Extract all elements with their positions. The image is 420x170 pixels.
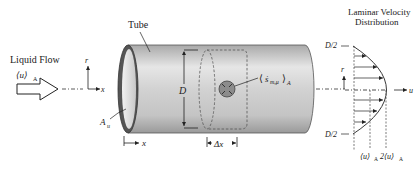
svg-text:A: A xyxy=(399,156,403,162)
liquid-flow-label: Liquid Flow xyxy=(10,54,61,65)
tube-label: Tube xyxy=(128,19,149,30)
axis-x-label: x xyxy=(100,85,105,94)
delta-x-label: Δx xyxy=(213,139,223,149)
x-position-marker xyxy=(124,136,139,146)
svg-text:ṡ: ṡ xyxy=(265,74,269,84)
svg-text:u: u xyxy=(107,123,110,129)
svg-text:A: A xyxy=(99,117,106,127)
profile-top-label: D/2 xyxy=(324,41,337,50)
tube xyxy=(118,45,314,133)
svg-text:⟨u⟩: ⟨u⟩ xyxy=(16,70,28,80)
velocity-profile xyxy=(353,46,387,150)
heat-source-icon xyxy=(219,81,235,97)
max-velocity-label: 2⟨u⟩ A xyxy=(380,152,403,162)
x-marker-label: x xyxy=(141,138,146,148)
area-label: A u xyxy=(99,117,110,129)
inlet-velocity-label: ⟨u⟩ A xyxy=(16,70,38,82)
diameter-label: D xyxy=(178,85,187,96)
axes-icon xyxy=(88,66,100,89)
tube-flow-diagram: Liquid Flow ⟨u⟩ A r x Tube A u D xyxy=(0,0,420,170)
profile-u-label: u xyxy=(409,86,413,95)
svg-text:⟨: ⟨ xyxy=(259,73,263,84)
mean-velocity-label: ⟨u⟩ A xyxy=(360,152,378,162)
axis-r-label: r xyxy=(85,56,89,65)
flow-arrow-icon xyxy=(17,78,58,100)
profile-r-label: r xyxy=(341,65,345,74)
profile-title-line2: Distribution xyxy=(355,17,399,27)
svg-text:2⟨u⟩: 2⟨u⟩ xyxy=(380,152,394,161)
svg-text:⟩: ⟩ xyxy=(282,73,286,84)
svg-text:⟨u⟩: ⟨u⟩ xyxy=(360,152,370,161)
svg-text:A: A xyxy=(33,76,38,82)
profile-bottom-label: D/2 xyxy=(324,130,337,139)
svg-text:A: A xyxy=(286,80,291,86)
svg-text:m,μ: m,μ xyxy=(270,79,279,85)
svg-text:A: A xyxy=(374,156,378,162)
profile-title-line1: Laminar Velocity xyxy=(348,7,411,17)
